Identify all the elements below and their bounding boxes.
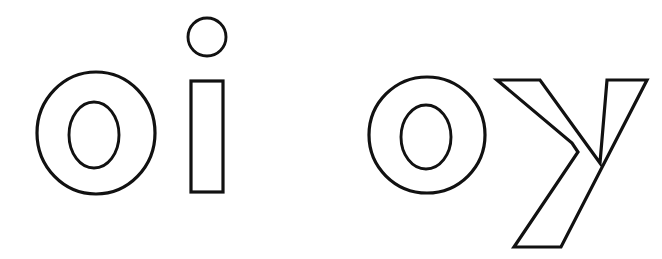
letters-illustration [0, 0, 662, 259]
letter-i-stem [191, 81, 223, 192]
worksheet-canvas: oi oy [0, 0, 662, 259]
letter-i [188, 18, 226, 192]
letter-i-dot [188, 18, 226, 56]
letter-o-second-counter [401, 105, 451, 169]
letter-o-second [369, 77, 485, 193]
letter-o-first [37, 72, 155, 194]
letter-o-first-counter [69, 102, 119, 168]
